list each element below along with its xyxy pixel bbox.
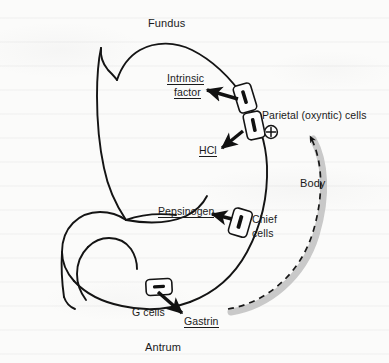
secretion-label-intrinsic-factor-line2: factor bbox=[174, 86, 201, 99]
secretion-label-pepsinogen: Pepsinogen bbox=[158, 205, 214, 218]
secretion-label-hcl: HCl bbox=[199, 144, 217, 157]
cell-label-parietal: Parietal (oxyntic) cells bbox=[262, 109, 367, 121]
figure-canvas: Fundus Body Antrum Intrinsic factor HCl … bbox=[0, 0, 389, 363]
region-label-fundus: Fundus bbox=[148, 17, 185, 29]
stomach-outline bbox=[62, 44, 267, 309]
stomach-diagram-svg bbox=[0, 0, 389, 363]
secretion-label-intrinsic-factor-line1: Intrinsic bbox=[167, 72, 204, 85]
cell-label-chief-line2: cells bbox=[252, 227, 274, 239]
plus-circle-icon bbox=[265, 126, 278, 139]
cell-label-g-cells: G cells bbox=[132, 306, 165, 318]
cell-label-chief-line1: Chief bbox=[252, 213, 277, 225]
secretion-label-gastrin: Gastrin bbox=[184, 315, 219, 328]
arrow-pepsinogen bbox=[212, 214, 232, 219]
arrow-hcl bbox=[222, 131, 243, 148]
region-label-antrum: Antrum bbox=[145, 341, 181, 353]
chief-cell bbox=[227, 207, 253, 238]
region-label-body: Body bbox=[300, 177, 325, 189]
